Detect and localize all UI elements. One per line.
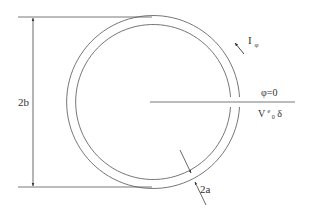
- ring-diagram: 2b φ=0 V e 0 δ I φ 2a: [0, 0, 313, 215]
- current-sub: φ: [254, 41, 258, 49]
- thickness-leader-top: [180, 150, 191, 173]
- label-2a: 2a: [200, 183, 211, 195]
- label-voltage: V e 0 δ: [258, 104, 282, 121]
- voltage-main: V: [258, 108, 266, 119]
- label-2b: 2b: [18, 96, 30, 108]
- voltage-tail: δ: [277, 108, 282, 119]
- voltage-sup: e: [268, 108, 271, 114]
- voltage-sub: 0: [272, 114, 275, 120]
- label-current: I φ: [248, 34, 258, 49]
- thickness-dimension: [180, 150, 206, 205]
- current-arrow: [235, 43, 244, 54]
- label-phi-zero: φ=0: [261, 87, 277, 98]
- current-main: I: [248, 34, 252, 46]
